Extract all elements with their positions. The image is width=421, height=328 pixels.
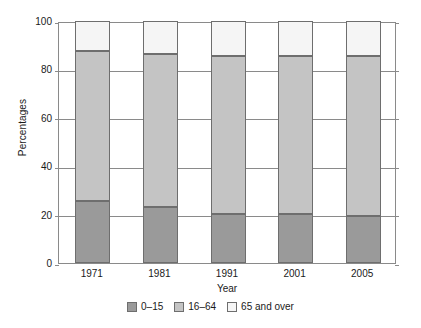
bar-segment[interactable]	[143, 207, 178, 263]
bar-segment[interactable]	[75, 21, 110, 51]
x-axis-tick-labels: 19711981199120012005	[58, 268, 396, 282]
chart-legend: 0–1516–6465 and over	[0, 302, 421, 312]
y-tick-mark	[395, 23, 399, 24]
y-tick-mark	[395, 216, 399, 217]
y-tick-mark	[395, 119, 399, 120]
bar-segment[interactable]	[75, 51, 110, 201]
bar-segment[interactable]	[211, 21, 246, 56]
legend-item[interactable]: 65 and over	[227, 302, 294, 312]
bar-segment[interactable]	[278, 56, 313, 214]
y-tick-mark	[395, 168, 399, 169]
y-tick-mark	[395, 71, 399, 72]
x-tick-label: 1971	[58, 268, 126, 279]
bar-group[interactable]	[346, 21, 381, 263]
bar-segment[interactable]	[75, 201, 110, 263]
legend-item[interactable]: 16–64	[174, 302, 216, 312]
y-tick-label: 80	[26, 65, 52, 75]
bar-group[interactable]	[278, 21, 313, 263]
bar-segment[interactable]	[346, 216, 381, 263]
bar-segment[interactable]	[346, 56, 381, 216]
legend-label: 16–64	[188, 302, 216, 312]
legend-swatch-icon	[227, 302, 237, 312]
legend-swatch-icon	[127, 302, 137, 312]
bar-group[interactable]	[211, 21, 246, 263]
y-tick-label: 100	[26, 17, 52, 27]
stacked-bar-chart: Percentages 020406080100 197119811991200…	[0, 0, 421, 328]
bar-segment[interactable]	[143, 21, 178, 54]
x-tick-label: 1991	[193, 268, 261, 279]
y-tick-label: 20	[26, 211, 52, 221]
bar-segment[interactable]	[211, 214, 246, 263]
bar-segment[interactable]	[346, 21, 381, 56]
bar-segment[interactable]	[143, 54, 178, 208]
x-axis-title: Year	[58, 283, 396, 294]
y-tick-mark	[395, 265, 399, 266]
legend-label: 65 and over	[241, 302, 294, 312]
y-tick-mark	[55, 265, 59, 266]
y-tick-label: 0	[26, 259, 52, 269]
x-tick-label: 2001	[261, 268, 329, 279]
bar-segment[interactable]	[211, 56, 246, 214]
y-axis-tick-labels: 020406080100	[22, 0, 52, 328]
x-tick-label: 2005	[328, 268, 396, 279]
legend-label: 0–15	[141, 302, 163, 312]
bar-segment[interactable]	[278, 214, 313, 263]
legend-swatch-icon	[174, 302, 184, 312]
bar-group[interactable]	[143, 21, 178, 263]
bar-segment[interactable]	[278, 21, 313, 56]
bar-group[interactable]	[75, 21, 110, 263]
plot-area	[58, 22, 396, 264]
y-tick-label: 40	[26, 162, 52, 172]
y-tick-label: 60	[26, 114, 52, 124]
bars-layer	[59, 23, 395, 263]
legend-item[interactable]: 0–15	[127, 302, 163, 312]
x-tick-label: 1981	[126, 268, 194, 279]
